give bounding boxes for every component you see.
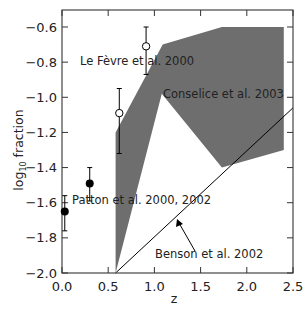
y-tick-label: −0.6	[25, 20, 57, 35]
x-tick-label: 2.5	[283, 279, 304, 294]
y-tick-label: −2.0	[25, 266, 57, 281]
annotation-conselice: Conselice et al. 2003	[163, 87, 284, 101]
y-tick-label: −1.2	[25, 125, 57, 140]
x-tick-label: 0.0	[52, 279, 73, 294]
filled-circle-marker	[86, 179, 94, 187]
arrow-head-icon	[176, 219, 183, 227]
chart: 0.00.51.01.52.02.5 −0.6−0.8−1.0−1.2−1.4−…	[0, 0, 307, 317]
x-tick-label: 1.0	[144, 279, 165, 294]
open-circle-marker	[142, 43, 149, 50]
x-tick-label: 0.5	[98, 279, 119, 294]
y-tick-label: −1.8	[25, 230, 57, 245]
annotation-le-fevre: Le Fèvre et al. 2000	[80, 54, 194, 68]
y-tick-label: −0.8	[25, 55, 57, 70]
y-tick-label: −1.4	[25, 160, 57, 175]
y-axis-label: log10 fraction	[11, 109, 28, 190]
open-circle-marker	[116, 109, 123, 116]
filled-circle-marker	[61, 208, 69, 216]
annotation-benson: Benson et al. 2002	[155, 247, 263, 261]
x-axis-label: z	[171, 291, 178, 306]
x-tick-label: 1.5	[190, 279, 211, 294]
y-tick-label: −1.6	[25, 195, 57, 210]
y-tick-label: −1.0	[25, 90, 57, 105]
x-tick-label: 2.0	[236, 279, 257, 294]
annotation-patton: Patton et al. 2000, 2002	[72, 193, 211, 207]
